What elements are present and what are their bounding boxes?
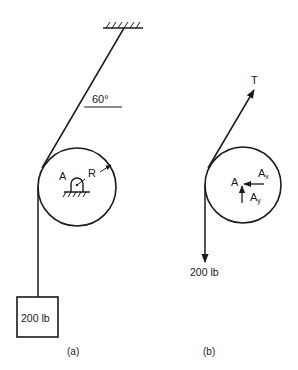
ceiling-support-icon — [103, 22, 143, 28]
angle-label: 60° — [92, 93, 109, 105]
reaction-x-label: Ax — [258, 167, 269, 180]
caption-a: (a) — [67, 346, 79, 357]
inclined-rope — [42, 28, 124, 168]
weight-label: 200 lb — [21, 312, 50, 324]
reaction-y-label: Ay — [250, 191, 261, 205]
caption-b: (b) — [203, 346, 215, 357]
pulley-diagram: 60° A R 200 lb (a) T — [0, 0, 298, 370]
tension-arrow-icon — [208, 90, 254, 168]
radius-label: R — [88, 167, 96, 179]
figure-a: 60° A R 200 lb (a) — [17, 22, 143, 357]
tension-label: T — [251, 74, 258, 86]
figure-b: T 200 lb A Ax Ay (b) — [190, 74, 281, 357]
weight-label-b: 200 lb — [190, 266, 219, 278]
pulley-disk — [38, 148, 116, 226]
pin-support-icon — [63, 178, 90, 197]
pin-label-a: A — [59, 170, 67, 182]
radius-arrow-icon — [100, 165, 111, 172]
pin-label-b: A — [231, 176, 239, 188]
pulley-free-body — [205, 147, 281, 223]
